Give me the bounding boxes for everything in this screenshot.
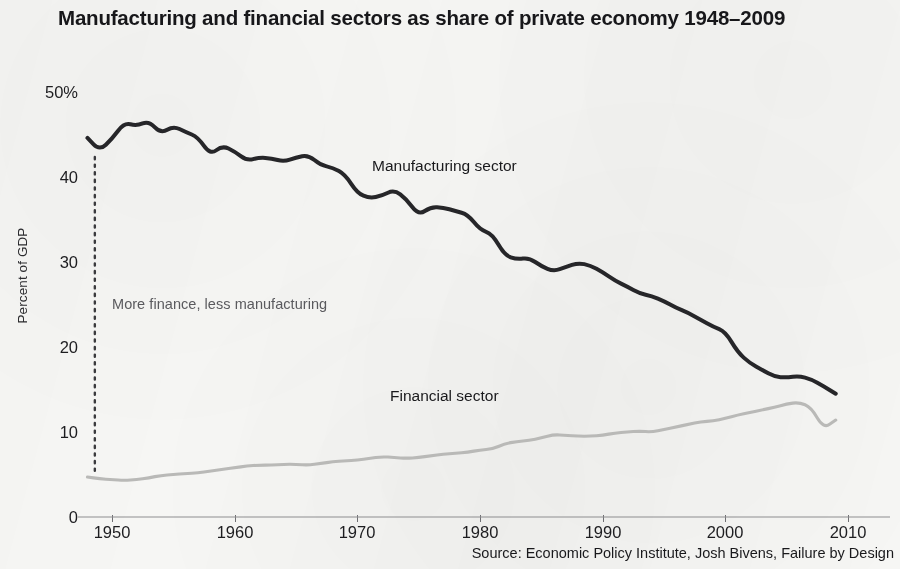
source-note: Source: Economic Policy Institute, Josh … bbox=[472, 545, 894, 561]
series-label-financial: Financial sector bbox=[390, 387, 499, 405]
plot-area bbox=[0, 0, 900, 569]
series-line-financial bbox=[87, 403, 835, 480]
chart-figure: Manufacturing and financial sectors as s… bbox=[0, 0, 900, 569]
annotation-more-finance-less-manufacturing: More finance, less manufacturing bbox=[112, 296, 327, 312]
series-label-manufacturing: Manufacturing sector bbox=[372, 157, 517, 175]
